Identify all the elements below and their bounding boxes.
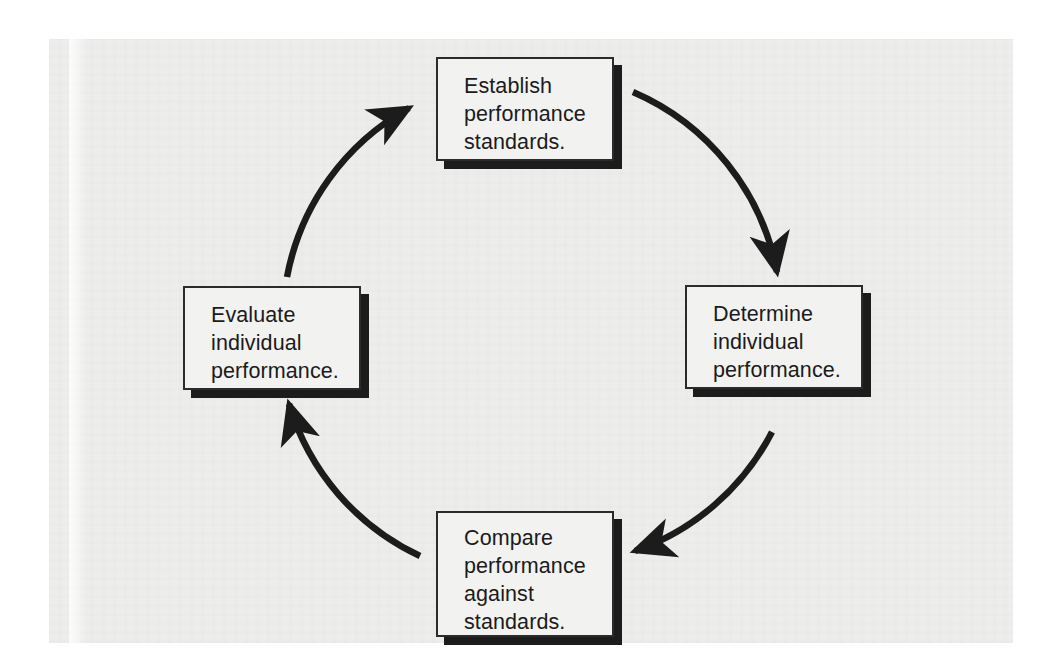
node-determine-individual-performance[interactable]: Determine individual performance. [685, 285, 863, 389]
diagram-page: Establish performance standards. Determi… [0, 0, 1060, 665]
node-establish-performance-standards[interactable]: Establish performance standards. [436, 57, 614, 161]
node-evaluate-individual-performance[interactable]: Evaluate individual performance. [183, 286, 361, 390]
node-compare-performance-against-standards[interactable]: Compare performance against standards. [436, 511, 614, 637]
